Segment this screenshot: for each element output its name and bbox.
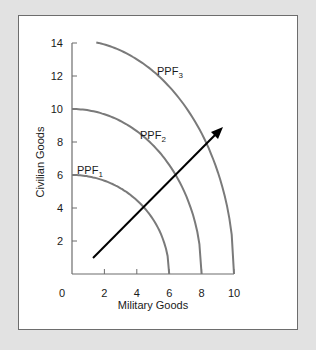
y-axis-title: Civilian Goods (34, 126, 46, 197)
x-axis-title: Military Goods (118, 299, 189, 311)
ppf2-curve (72, 109, 202, 274)
y-tick-label: 14 (51, 37, 63, 49)
y-ticks: 2468101214 (51, 37, 77, 247)
x-tick-label: 4 (134, 287, 140, 299)
ppf-curves (72, 42, 234, 274)
x-tick-label: 2 (101, 287, 107, 299)
ppf-chart: 2468101214 246810 PPF1 PPF2 PPF3 Militar… (0, 0, 316, 350)
y-tick-label: 10 (51, 103, 63, 115)
ppf1-curve (72, 175, 169, 274)
x-tick-label: 6 (166, 287, 172, 299)
shift-arrow (93, 127, 223, 258)
y-tick-label: 4 (57, 202, 63, 214)
y-tick-label: 12 (51, 70, 63, 82)
x-tick-label: 10 (228, 287, 240, 299)
origin-label: 0 (59, 287, 65, 299)
y-tick-label: 8 (57, 136, 63, 148)
y-tick-label: 2 (57, 235, 63, 247)
y-tick-label: 6 (57, 169, 63, 181)
x-tick-label: 8 (199, 287, 205, 299)
ppf2-label: PPF2 (140, 129, 166, 144)
